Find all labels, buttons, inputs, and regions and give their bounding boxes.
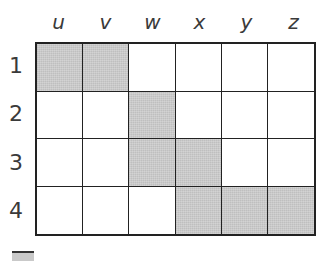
- column-label-x: x: [176, 10, 223, 34]
- grid-cell-y2: [222, 92, 268, 140]
- column-label-w: w: [129, 10, 176, 34]
- grid-cell-v1: [83, 44, 129, 92]
- grid-cell-w3: [129, 139, 175, 187]
- grid-cell-w4: [129, 187, 175, 235]
- grid-cell-z3: [268, 139, 314, 187]
- row-label-4: 4: [4, 187, 28, 235]
- grid-cell-u4: [37, 187, 83, 235]
- shaded-grid: [35, 42, 316, 236]
- grid-cell-x2: [176, 92, 222, 140]
- legend-shaded-swatch: [12, 251, 34, 261]
- grid-cell-u1: [37, 44, 83, 92]
- grid-cell-z4: [268, 187, 314, 235]
- grid-cell-u2: [37, 92, 83, 140]
- grid-cell-x3: [176, 139, 222, 187]
- grid-cell-u3: [37, 139, 83, 187]
- grid-cell-x1: [176, 44, 222, 92]
- row-label-2: 2: [4, 90, 28, 138]
- grid-cell-v3: [83, 139, 129, 187]
- grid-cell-z2: [268, 92, 314, 140]
- grid-cell-y1: [222, 44, 268, 92]
- row-label-1: 1: [4, 42, 28, 90]
- column-label-u: u: [35, 10, 82, 34]
- grid-cell-y3: [222, 139, 268, 187]
- row-label-3: 3: [4, 139, 28, 187]
- grid-cell-v2: [83, 92, 129, 140]
- grid-cell-w2: [129, 92, 175, 140]
- column-label-y: y: [223, 10, 270, 34]
- grid-cell-v4: [83, 187, 129, 235]
- grid-cell-w1: [129, 44, 175, 92]
- grid-cell-z1: [268, 44, 314, 92]
- column-label-v: v: [82, 10, 129, 34]
- grid-cell-x4: [176, 187, 222, 235]
- grid-cell-y4: [222, 187, 268, 235]
- column-label-z: z: [270, 10, 317, 34]
